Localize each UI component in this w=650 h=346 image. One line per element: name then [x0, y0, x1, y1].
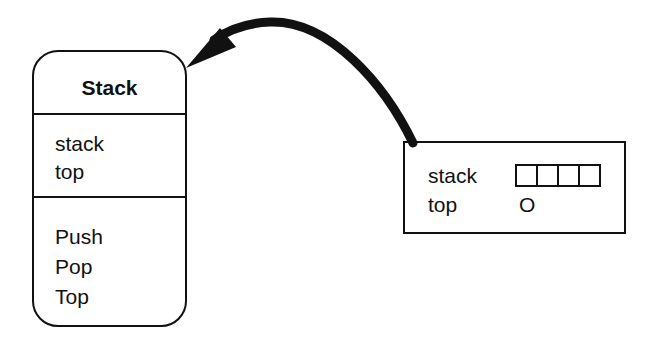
array-cell — [538, 166, 559, 185]
operations-section: Push Pop Top — [34, 198, 185, 325]
class-title: Stack — [81, 76, 137, 100]
operation-push: Push — [55, 224, 103, 250]
attribute-stack: stack — [55, 131, 104, 157]
array-cell — [580, 166, 599, 185]
array-cell — [559, 166, 580, 185]
operation-pop: Pop — [55, 254, 92, 280]
operation-top: Top — [55, 284, 89, 310]
field-label-top: top — [428, 192, 457, 218]
stack-array — [515, 164, 601, 187]
object-box-stack-instance: stack top O — [403, 141, 626, 234]
field-value-top: O — [519, 192, 535, 218]
class-box-stack: Stack stack top Push Pop Top — [32, 50, 187, 327]
attributes-section: stack top — [34, 115, 185, 198]
field-label-stack: stack — [428, 163, 477, 189]
array-cell — [517, 166, 538, 185]
class-header: Stack — [34, 52, 185, 115]
attribute-top: top — [55, 159, 84, 185]
